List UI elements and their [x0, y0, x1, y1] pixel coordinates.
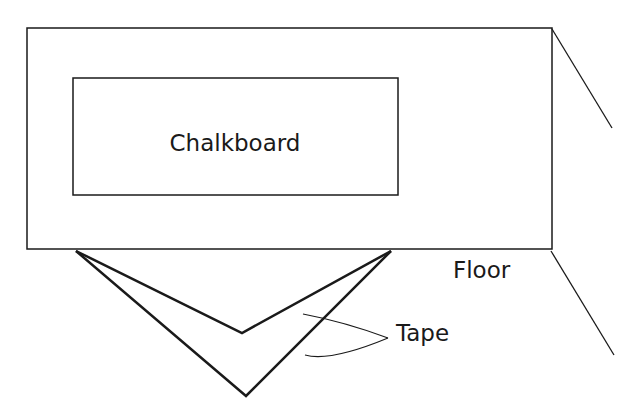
- chalkboard-diagram: Chalkboard Floor Tape: [0, 0, 632, 418]
- floor-label: Floor: [453, 257, 511, 283]
- wall-corner-upper-line: [552, 29, 612, 128]
- floor-corner-line: [551, 251, 614, 355]
- tape-leader-lower: [305, 338, 388, 357]
- tape-label: Tape: [395, 320, 449, 346]
- chalkboard-label: Chalkboard: [170, 130, 301, 156]
